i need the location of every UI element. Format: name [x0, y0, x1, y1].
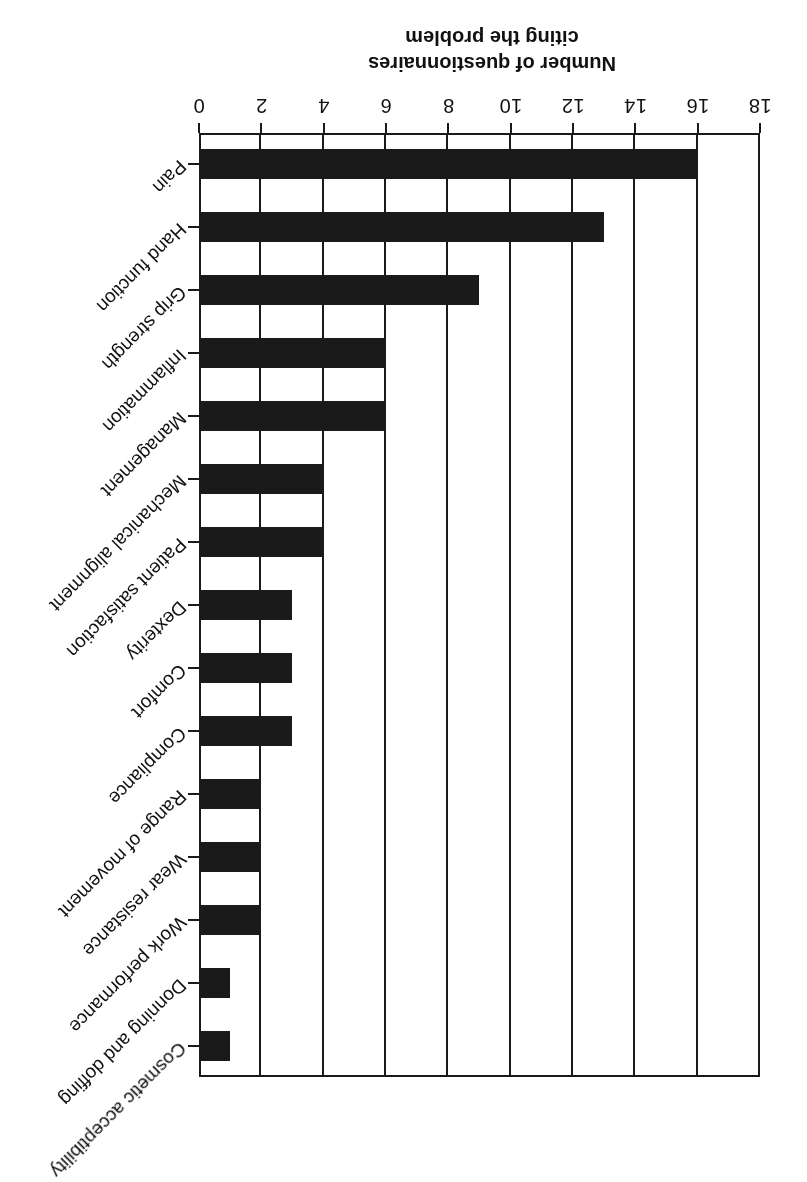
category-tick — [188, 478, 199, 480]
value-tick-label-4: 4 — [304, 94, 344, 118]
category-tick — [188, 856, 199, 858]
value-tick-label-2: 2 — [241, 94, 281, 118]
bar — [199, 653, 293, 683]
gridline-12 — [571, 135, 573, 1075]
value-tick-2 — [260, 123, 262, 133]
bar — [199, 401, 386, 431]
bar — [199, 779, 261, 809]
value-tick-8 — [447, 123, 449, 133]
gridline-10 — [509, 135, 511, 1075]
category-tick — [188, 730, 199, 732]
bar — [199, 527, 324, 557]
category-label: Work performance — [65, 912, 190, 1037]
value-tick-0 — [198, 123, 200, 133]
category-tick — [188, 541, 199, 543]
value-tick-label-6: 6 — [366, 94, 406, 118]
bar — [199, 716, 293, 746]
value-tick-label-14: 14 — [615, 94, 655, 118]
value-tick-16 — [697, 123, 699, 133]
category-tick — [188, 919, 199, 921]
bar — [199, 905, 261, 935]
value-tick-label-8: 8 — [428, 94, 468, 118]
value-tick-14 — [634, 123, 636, 133]
gridline-16 — [696, 135, 698, 1075]
value-tick-label-16: 16 — [678, 94, 718, 118]
value-tick-label-18: 18 — [740, 94, 780, 118]
bar — [199, 149, 698, 179]
value-tick-10 — [510, 123, 512, 133]
category-label: Patient satisfaction — [63, 534, 191, 662]
category-tick — [188, 415, 199, 417]
bar — [199, 1031, 230, 1061]
value-tick-6 — [385, 123, 387, 133]
value-tick-label-10: 10 — [491, 94, 531, 118]
gridline-14 — [633, 135, 635, 1075]
category-tick — [188, 289, 199, 291]
value-tick-18 — [759, 123, 761, 133]
bar — [199, 212, 604, 242]
value-tick-4 — [323, 123, 325, 133]
category-tick — [188, 793, 199, 795]
category-label: Pain — [149, 157, 191, 199]
category-tick — [188, 604, 199, 606]
value-axis-title-line1: Number of questionnaires — [327, 51, 657, 77]
bar — [199, 968, 230, 998]
bar — [199, 842, 261, 872]
bar — [199, 590, 293, 620]
value-tick-12 — [572, 123, 574, 133]
category-label: Dexterity — [123, 597, 191, 665]
value-tick-label-0: 0 — [179, 94, 219, 118]
category-tick — [188, 163, 199, 165]
category-tick — [188, 982, 199, 984]
category-tick — [188, 226, 199, 228]
value-axis-title-line2: citing the problem — [327, 25, 657, 51]
category-tick — [188, 667, 199, 669]
category-label: Comfort — [128, 660, 191, 723]
category-tick — [188, 1045, 199, 1047]
bar — [199, 275, 480, 305]
bar — [199, 338, 386, 368]
value-tick-label-12: 12 — [553, 94, 593, 118]
value-axis-title: Number of questionnaires citing the prob… — [327, 25, 657, 77]
category-tick — [188, 352, 199, 354]
plot-area — [199, 133, 760, 1077]
bar — [199, 464, 324, 494]
